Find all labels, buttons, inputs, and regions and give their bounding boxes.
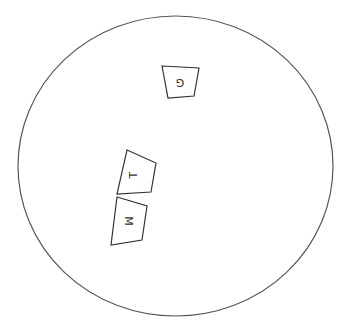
boundary-circle [18,16,333,316]
diagram-canvas [0,0,350,326]
label-g: G [173,74,187,88]
label-t: T [128,168,142,182]
label-m: M [120,214,134,228]
